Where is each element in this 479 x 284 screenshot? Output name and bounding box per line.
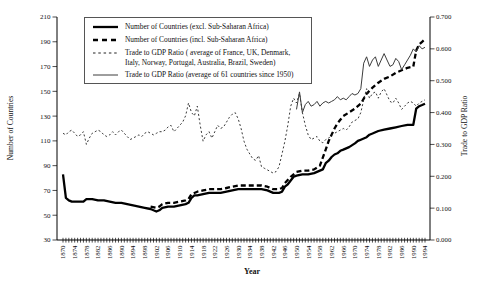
x-tick-label: 1962: [328, 245, 335, 259]
x-tick-label: 1994: [421, 245, 428, 259]
legend-entry-countries-excl-ssa: Number of Countries (excl. Sub-Saharan A…: [92, 22, 307, 32]
x-tick-label: 1938: [258, 245, 265, 259]
y-tick-label-left: 90: [44, 162, 52, 170]
x-tick-label: 1934: [246, 245, 253, 259]
legend-marker-thick-dashed-line: [92, 35, 119, 45]
x-tick-label: 1922: [211, 245, 218, 259]
x-tick-label: 1978: [375, 245, 382, 259]
x-tick-label: 1946: [281, 245, 288, 259]
x-tick-label: 1914: [188, 245, 195, 259]
y-tick-label-right: 0.200: [436, 173, 452, 180]
legend-label: Number of Countries (incl. Sub-Saharan A…: [125, 35, 267, 45]
y-axis-title-right: Trade to GDP Ratio: [460, 96, 469, 157]
x-tick-label: 1982: [386, 245, 393, 259]
x-tick-label: 1874: [71, 245, 78, 259]
x-tick-label: 1870: [59, 245, 66, 259]
chart-figure: 305070901101301501701902100.0000.1000.20…: [0, 0, 479, 284]
x-tick-label: 1918: [200, 245, 207, 259]
x-tick-label: 1942: [270, 245, 277, 259]
x-tick-label: 1954: [305, 245, 312, 259]
series-line-countries-excl-ssa: [63, 104, 425, 212]
legend-marker-thick-solid-line: [92, 22, 119, 32]
x-tick-label: 1950: [293, 245, 300, 259]
series-line-trade-gdp-9-countries: [63, 89, 425, 173]
x-axis-ticks: 1870187418781882188618901894189819021906…: [59, 238, 428, 259]
legend-marker-thin-solid-line: [92, 70, 119, 80]
x-tick-label: 1886: [106, 245, 113, 259]
y-axis-title-left: Number of Countries: [6, 96, 15, 161]
y-tick-label-right: 0.400: [436, 109, 452, 116]
y-tick-label-right: 0.300: [436, 141, 452, 148]
x-tick-label: 1958: [316, 245, 323, 259]
y-tick-label-left: 170: [40, 63, 51, 71]
legend-label: Trade to GDP Ratio (average of 61 countr…: [125, 70, 293, 80]
x-tick-label: 1894: [129, 245, 136, 259]
x-tick-label: 1898: [141, 245, 148, 259]
x-tick-label: 1966: [340, 245, 347, 259]
x-tick-label: 1906: [164, 245, 171, 259]
x-tick-label: 1910: [176, 245, 183, 259]
y-tick-label-right: 0.700: [436, 13, 452, 20]
x-tick-label: 1986: [398, 245, 405, 259]
legend: Number of Countries (excl. Sub-Saharan A…: [84, 17, 312, 84]
x-tick-label: 1902: [153, 245, 160, 259]
y-tick-label-right: 0.100: [436, 205, 452, 212]
x-tick-label: 1970: [351, 245, 358, 259]
legend-entry-trade-gdp-61: Trade to GDP Ratio (average of 61 countr…: [92, 70, 307, 80]
x-tick-label: 1930: [235, 245, 242, 259]
series-line-trade-gdp-61-countries: [297, 46, 426, 113]
y-tick-label-left: 210: [40, 13, 51, 21]
y-tick-label-left: 70: [44, 187, 52, 195]
x-tick-label: 1926: [223, 245, 230, 259]
legend-entry-countries-incl-ssa: Number of Countries (incl. Sub-Saharan A…: [92, 35, 307, 45]
x-tick-label: 1878: [83, 245, 90, 259]
y-tick-label-left: 110: [40, 137, 51, 145]
y-axis-left-ticks: 30507090110130150170190210: [40, 13, 57, 244]
y-tick-label-left: 150: [40, 88, 51, 96]
x-tick-label: 1890: [118, 245, 125, 259]
legend-label: Number of Countries (excl. Sub-Saharan A…: [125, 22, 269, 32]
x-axis-title: Year: [244, 267, 260, 276]
y-tick-label-left: 190: [40, 38, 51, 46]
x-tick-label: 1882: [94, 245, 101, 259]
y-tick-label-left: 130: [40, 113, 51, 121]
y-tick-label-right: 0.600: [436, 45, 452, 52]
y-tick-label-right: 0.000: [436, 236, 452, 243]
legend-label: Trade to GDP Ratio ( average of France, …: [125, 48, 307, 67]
x-tick-label: 1974: [363, 245, 370, 259]
legend-marker-dotted-line: [92, 48, 119, 58]
y-tick-label-right: 0.500: [436, 77, 452, 84]
y-tick-label-left: 50: [44, 212, 52, 220]
y-tick-label-left: 30: [44, 236, 52, 244]
legend-entry-trade-gdp-9: Trade to GDP Ratio ( average of France, …: [92, 48, 307, 67]
y-axis-right-ticks: 0.0000.1000.2000.3000.4000.5000.6000.700: [430, 13, 452, 243]
x-tick-label: 1990: [410, 245, 417, 259]
